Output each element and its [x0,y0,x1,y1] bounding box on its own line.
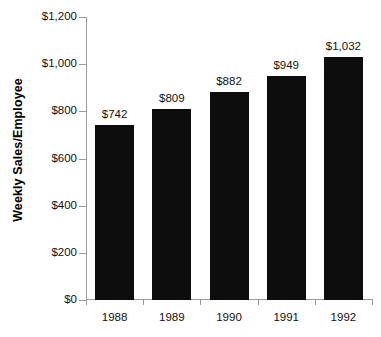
bar-value-label: $1,032 [326,41,361,53]
bar-value-label: $949 [273,60,299,72]
y-axis-tick-label: $800 [51,106,77,118]
bar [210,92,249,300]
x-axis-tick [143,299,144,305]
x-axis-tick [258,299,259,305]
x-axis-tick [86,299,87,305]
y-axis-tick [79,17,87,18]
x-axis-category-label: 1989 [159,312,185,324]
bar-value-label: $742 [102,109,128,121]
y-axis-title-label: Weekly Sales/Employee [11,78,25,222]
x-axis-category-label: 1991 [273,312,299,324]
y-axis-tick-label: $0 [64,294,77,306]
y-axis-tick [79,206,87,207]
x-axis-tick [372,299,373,305]
y-axis-title: Weekly Sales/Employee [4,0,32,300]
x-axis-tick [200,299,201,305]
x-axis-category-label: 1988 [102,312,128,324]
x-axis-category-label: 1992 [331,312,357,324]
y-axis-tick-label: $200 [51,247,77,259]
bar-value-label: $809 [159,93,185,105]
x-axis-category-label: 1990 [216,312,242,324]
bar [267,76,306,300]
y-axis-tick [79,159,87,160]
bar [152,109,191,300]
y-axis-tick [79,64,87,65]
plot-area: $0$200$400$600$800$1,000$1,200 $742$809$… [86,17,372,300]
y-axis-tick-label: $1,200 [42,11,77,23]
y-axis-tick-label: $400 [51,200,77,212]
y-axis-tick [79,253,87,254]
y-axis-tick-label: $1,000 [42,58,77,70]
bar [324,57,363,300]
x-axis-tick [315,299,316,305]
bar [95,125,134,300]
bar-value-label: $882 [216,76,242,88]
y-axis-tick-label: $600 [51,153,77,165]
bar-chart: Weekly Sales/Employee $0$200$400$600$800… [0,0,381,337]
y-axis-tick [79,111,87,112]
